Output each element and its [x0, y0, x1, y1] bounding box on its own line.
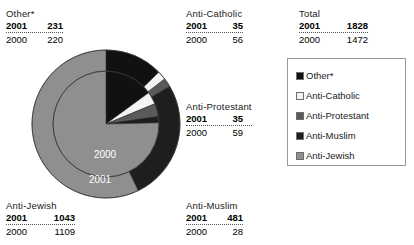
callout-current-year: 2001 — [186, 212, 212, 224]
hate-crime-religious-bias-figure: { "callouts": [ { "key": "other", "categ… — [0, 0, 414, 245]
ring-label-2001: 2001 — [89, 174, 112, 185]
legend-swatch-icon — [296, 72, 304, 80]
callout-previous-year: 2000 — [6, 226, 32, 238]
callout-previous-value: 1109 — [37, 226, 75, 238]
callout-anti-catholic: Anti-Catholic 2001 35 2000 56 — [186, 8, 243, 46]
callout-current-year: 2001 — [299, 20, 325, 32]
callout-current-value: 1043 — [37, 212, 75, 224]
callout-previous-value: 28 — [217, 226, 243, 238]
legend-item-label: Anti-Catholic — [306, 91, 360, 101]
callout-current-year: 2001 — [186, 20, 212, 32]
callout-previous-year: 2000 — [186, 34, 212, 46]
callout-previous-year: 2000 — [299, 34, 325, 46]
callout-previous-row: 2000 1109 — [6, 225, 75, 238]
callout-current-value: 231 — [37, 20, 63, 32]
inner-disc-2000 — [53, 71, 159, 177]
callout-current-row: 2001 35 — [186, 113, 252, 126]
callout-category-label: Total — [299, 8, 368, 20]
legend-item-label: Anti-Jewish — [306, 151, 355, 161]
legend-swatch-icon — [296, 132, 304, 140]
legend-item-anti-protestant: Anti-Protestant — [296, 106, 405, 126]
legend-swatch-icon — [296, 152, 304, 160]
callout-previous-value: 56 — [217, 34, 243, 46]
callout-previous-year: 2000 — [186, 226, 212, 238]
callout-previous-row: 2000 220 — [6, 33, 63, 46]
callout-category-label: Anti-Muslim — [186, 200, 243, 212]
callout-anti-protestant: Anti-Protestant 2001 35 2000 59 — [186, 101, 252, 139]
legend-swatch-icon — [296, 92, 304, 100]
legend-item-label: Anti-Protestant — [306, 111, 369, 121]
legend-item-label: Other* — [306, 71, 333, 81]
callout-current-value: 1828 — [330, 20, 368, 32]
callout-previous-year: 2000 — [6, 34, 32, 46]
pie-svg: 2001 2000 — [31, 49, 181, 199]
legend-item-other: Other* — [296, 66, 405, 86]
callout-previous-row: 2000 1472 — [299, 33, 368, 46]
callout-previous-row: 2000 28 — [186, 225, 243, 238]
callout-current-row: 2001 481 — [186, 212, 243, 225]
legend-item-anti-muslim: Anti-Muslim — [296, 126, 405, 146]
callout-current-row: 2001 231 — [6, 20, 63, 33]
callout-previous-value: 59 — [217, 127, 243, 139]
legend-swatch-icon — [296, 112, 304, 120]
callout-anti-muslim: Anti-Muslim 2001 481 2000 28 — [186, 200, 243, 238]
callout-current-year: 2001 — [6, 212, 32, 224]
callout-total: Total 2001 1828 2000 1472 — [299, 8, 368, 46]
callout-current-row: 2001 1043 — [6, 212, 75, 225]
callout-current-value: 35 — [217, 113, 243, 125]
callout-previous-value: 220 — [37, 34, 63, 46]
legend: Other* Anti-Catholic Anti-Protestant Ant… — [287, 58, 406, 166]
callout-current-row: 2001 35 — [186, 20, 243, 33]
legend-item-anti-catholic: Anti-Catholic — [296, 86, 405, 106]
ring-label-2000: 2000 — [94, 149, 117, 160]
callout-previous-row: 2000 56 — [186, 33, 243, 46]
callout-category-label: Other* — [6, 8, 63, 20]
callout-previous-value: 1472 — [330, 34, 368, 46]
callout-category-label: Anti-Catholic — [186, 8, 243, 20]
callout-category-label: Anti-Protestant — [186, 101, 252, 113]
legend-item-label: Anti-Muslim — [306, 131, 356, 141]
nested-pie-chart: 2001 2000 — [31, 49, 181, 199]
callout-current-row: 2001 1828 — [299, 20, 368, 33]
callout-previous-row: 2000 59 — [186, 126, 252, 139]
callout-current-value: 35 — [217, 20, 243, 32]
callout-previous-year: 2000 — [186, 127, 212, 139]
callout-current-value: 481 — [217, 212, 243, 224]
callout-anti-jewish: Anti-Jewish 2001 1043 2000 1109 — [6, 200, 75, 238]
legend-item-anti-jewish: Anti-Jewish — [296, 146, 405, 166]
callout-category-label: Anti-Jewish — [6, 200, 75, 212]
callout-current-year: 2001 — [186, 113, 212, 125]
callout-current-year: 2001 — [6, 20, 32, 32]
callout-other: Other* 2001 231 2000 220 — [6, 8, 63, 46]
